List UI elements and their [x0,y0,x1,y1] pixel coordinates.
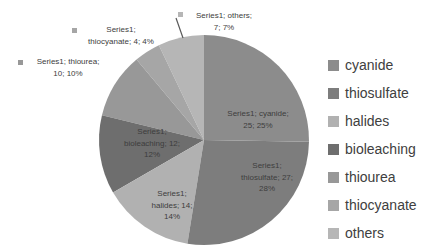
data-label-halides: Series1; halides; 14; 14% [152,188,193,223]
legend-swatch-bioleaching [328,144,339,155]
legend-item-thiocyanate: thiocyanate [328,191,417,219]
legend: cyanide thiosulfate halides bioleaching … [328,51,417,247]
legend-item-bioleaching: bioleaching [328,135,417,163]
legend-item-cyanide: cyanide [328,51,417,79]
legend-swatch-thiosulfate [328,88,339,99]
legend-swatch-halides [328,116,339,127]
legend-swatch-thiocyanate [328,200,339,211]
data-label-cyanide: Series1; cyanide; 25; 25% [227,108,288,131]
data-label-thiourea: Series1; thiourea; 10; 10% [37,56,100,79]
legend-swatch-cyanide [328,60,339,71]
legend-label: thiosulfate [345,85,409,101]
legend-label: halides [345,113,389,129]
legend-label: bioleaching [345,141,416,157]
legend-label: thiourea [345,169,396,185]
legend-label: thiocyanate [345,197,417,213]
data-label-others: Series1; others; 7; 7% [196,10,252,33]
others-leader-line [176,18,183,38]
data-label-thiocyanate: Series1; thiocyanate; 4; 4% [88,24,154,47]
legend-label: cyanide [345,57,393,73]
legend-item-thiosulfate: thiosulfate [328,79,417,107]
data-label-thiosulfate: Series1; thiosulfate; 27; 28% [241,160,293,195]
pie-chart-figure: Series1; cyanide; 25; 25% Series1; thios… [0,0,437,250]
data-label-bioleaching: Series1; bioleaching; 12; 12% [124,126,180,161]
legend-label: others [345,225,384,241]
legend-item-halides: halides [328,107,417,135]
legend-swatch-thiourea [328,172,339,183]
thiocyanate-key-icon [72,28,77,33]
legend-swatch-others [328,228,339,239]
legend-item-others: others [328,219,417,247]
others-key-icon [178,12,183,17]
thiourea-key-icon [18,60,23,65]
legend-item-thiourea: thiourea [328,163,417,191]
